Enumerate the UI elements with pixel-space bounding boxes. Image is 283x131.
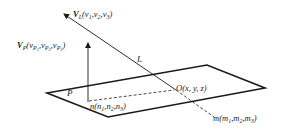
diagram-svg — [0, 0, 283, 131]
plane-p-label: P — [67, 89, 73, 98]
vector-vp-label: VP(vP1,vP2,vP3) — [17, 41, 65, 53]
paren-close: ) — [254, 113, 257, 123]
point-m-label: m(m1,m2,m3) — [213, 114, 257, 124]
paren-close: ) — [109, 9, 112, 19]
paren-close: ) — [63, 40, 66, 50]
point-n-label: n(n1,n2,n3) — [90, 102, 126, 112]
line-l-label: L — [137, 55, 142, 64]
plane-p-outline — [47, 65, 265, 117]
n-to-o-dashed-line — [89, 90, 174, 101]
line-plane-diagram: VL(v1,v2,v3) VP(vP1,vP2,vP3) L P O(x, y,… — [0, 0, 283, 131]
line-l-solid — [64, 14, 176, 90]
vector-vl-label: VL(v1,v2,v3) — [73, 10, 112, 20]
paren-close: ) — [123, 101, 126, 111]
point-o-label: O(x, y, z) — [176, 84, 207, 93]
